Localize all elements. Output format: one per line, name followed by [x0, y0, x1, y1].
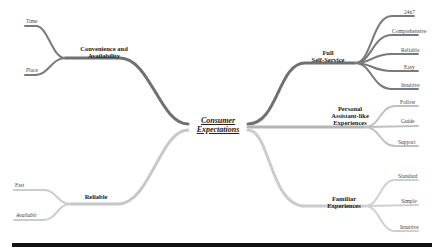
leaf-fast: Fast	[15, 182, 24, 188]
connector-fast	[14, 190, 70, 204]
leaf-24x7: 24x7	[404, 9, 415, 15]
leaf-standard: Standard	[398, 173, 418, 179]
leaf-guide: Guide	[401, 118, 414, 124]
branch-familiar: Familiar Experiences	[318, 195, 370, 209]
branch-assistant-line2: Assistant-like	[320, 112, 380, 119]
connector-convenience	[65, 58, 188, 124]
branch-reliable: Reliable	[76, 193, 116, 200]
bottom-divider	[12, 243, 432, 247]
branch-convenience-line1: Convenience and	[70, 45, 138, 52]
leaf-reliable-ss: Reliable	[401, 47, 419, 53]
connector-24x7	[355, 16, 414, 63]
branch-self-service-line1: Full	[302, 49, 354, 56]
leaf-time: Time	[26, 18, 37, 24]
branch-self-service: Full Self-Service	[302, 49, 354, 63]
branch-familiar-line1: Familiar	[318, 195, 370, 202]
leaf-easy: Easy	[404, 64, 415, 70]
branch-assistant: Personal Assistant-like Experiences	[320, 105, 380, 126]
connector-guide	[365, 126, 418, 127]
connector-simple	[365, 205, 418, 206]
branch-self-service-line2: Self-Service	[302, 56, 354, 63]
center-line2: Expectations	[188, 125, 248, 134]
leaf-follow: Follow	[400, 99, 416, 105]
branch-assistant-line1: Personal	[320, 105, 380, 112]
center-node: Consumer Expectations	[188, 116, 248, 134]
center-line1: Consumer	[188, 116, 248, 125]
connector-time	[25, 26, 65, 58]
branch-reliable-line1: Reliable	[76, 193, 116, 200]
leaf-intuitive-fam: Intuitive	[400, 224, 419, 230]
branch-familiar-line2: Experiences	[318, 202, 370, 209]
leaf-support: Support	[398, 139, 415, 145]
branch-assistant-line3: Experiences	[320, 119, 380, 126]
leaf-place: Place	[26, 67, 38, 73]
leaf-intuitive-ss: Intuitive	[401, 82, 420, 88]
branch-convenience-line2: Availability	[70, 52, 138, 59]
leaf-simple: Simple	[401, 198, 417, 204]
branch-convenience: Convenience and Availability	[70, 45, 138, 59]
leaf-available: Available	[16, 212, 37, 218]
leaf-comprehensive: Comprehensive	[392, 28, 427, 34]
